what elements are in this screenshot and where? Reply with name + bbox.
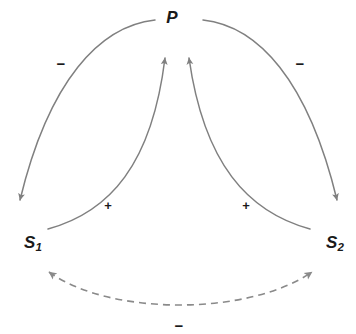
diagram-canvas: P S1 S2 − − + + − <box>0 0 356 334</box>
node-label-p: P <box>166 9 177 26</box>
node-label-s1-subscript: 1 <box>35 241 41 253</box>
edge-sign-p-to-s1: − <box>57 56 66 71</box>
edge-sign-p-to-s2: − <box>296 56 305 71</box>
edge-sign-s1-s2-mutual: − <box>175 318 184 333</box>
node-label-s2-subscript: 2 <box>337 241 343 253</box>
edge-s1-s2-mutual <box>49 272 312 305</box>
edge-p-to-s2 <box>203 20 337 200</box>
edge-sign-s1-to-p: + <box>104 199 112 212</box>
node-label-s2: S2 <box>326 234 344 254</box>
edge-sign-s2-to-p: + <box>242 199 250 212</box>
diagram-edges-layer <box>0 0 356 334</box>
node-label-s2-text: S <box>326 233 337 252</box>
edge-p-to-s1 <box>20 20 155 200</box>
node-label-p-text: P <box>166 8 177 27</box>
node-label-s1: S1 <box>24 234 42 254</box>
node-label-s1-text: S <box>24 233 35 252</box>
